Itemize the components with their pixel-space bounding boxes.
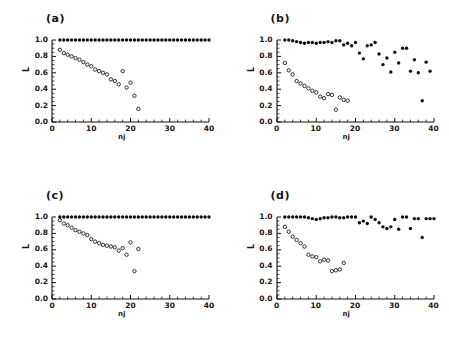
open-circle-marker — [62, 51, 65, 54]
series-open — [58, 218, 140, 272]
filled-circle-marker — [318, 41, 321, 44]
filled-circle-marker — [145, 215, 148, 218]
x-tick-label: 30 — [165, 301, 175, 310]
filled-circle-marker — [306, 41, 309, 44]
x-tick-label: 40 — [428, 301, 438, 310]
filled-circle-marker — [373, 217, 376, 220]
filled-circle-marker — [109, 215, 112, 218]
open-circle-marker — [137, 247, 140, 250]
filled-circle-marker — [361, 57, 364, 60]
filled-circle-marker — [121, 38, 124, 41]
filled-circle-marker — [74, 38, 77, 41]
filled-circle-marker — [125, 215, 128, 218]
filled-circle-marker — [168, 215, 171, 218]
filled-circle-marker — [141, 38, 144, 41]
open-circle-marker — [117, 248, 120, 251]
filled-circle-marker — [369, 43, 372, 46]
filled-circle-marker — [133, 38, 136, 41]
x-tick-label: 20 — [125, 124, 135, 133]
filled-circle-marker — [117, 215, 120, 218]
filled-circle-marker — [113, 38, 116, 41]
filled-circle-marker — [66, 215, 69, 218]
filled-circle-marker — [302, 215, 305, 218]
y-tick-labels: 0.00.20.40.60.81.0 — [247, 217, 273, 299]
open-circle-marker — [310, 89, 313, 92]
filled-circle-marker — [412, 216, 415, 219]
filled-circle-marker — [152, 38, 155, 41]
open-circle-marker — [70, 225, 73, 228]
filled-circle-marker — [62, 215, 65, 218]
filled-circle-marker — [86, 215, 89, 218]
filled-circle-marker — [164, 215, 167, 218]
filled-circle-marker — [330, 41, 333, 44]
filled-circle-marker — [62, 38, 65, 41]
filled-circle-marker — [408, 226, 411, 229]
chart-panel-d: (d)Lnj0.00.20.40.60.81.0010203040 — [225, 177, 449, 353]
filled-circle-marker — [291, 39, 294, 42]
filled-circle-marker — [188, 215, 191, 218]
open-circle-marker — [291, 234, 294, 237]
filled-circle-marker — [160, 215, 163, 218]
filled-circle-marker — [90, 215, 93, 218]
filled-circle-marker — [322, 216, 325, 219]
filled-circle-marker — [404, 215, 407, 218]
filled-circle-marker — [302, 42, 305, 45]
filled-circle-marker — [322, 41, 325, 44]
filled-circle-marker — [294, 40, 297, 43]
open-circle-marker — [322, 257, 325, 260]
filled-circle-marker — [353, 41, 356, 44]
filled-circle-marker — [176, 215, 179, 218]
filled-circle-marker — [78, 215, 81, 218]
figure-panel-grid: (a)Lnj0.00.20.40.60.81.0010203040(b)Lnj0… — [0, 0, 449, 353]
series-filled — [58, 38, 211, 41]
filled-circle-marker — [196, 215, 199, 218]
filled-circle-marker — [326, 40, 329, 43]
open-circle-marker — [121, 69, 124, 72]
filled-circle-marker — [342, 216, 345, 219]
open-circle-marker — [66, 223, 69, 226]
filled-circle-marker — [74, 215, 77, 218]
plot-area — [52, 217, 209, 299]
y-tick-label: 0.8 — [35, 228, 48, 237]
series-filled — [283, 215, 436, 239]
open-circle-marker — [105, 244, 108, 247]
filled-circle-marker — [93, 38, 96, 41]
filled-circle-marker — [361, 219, 364, 222]
filled-circle-marker — [420, 235, 423, 238]
open-circle-marker — [133, 269, 136, 272]
x-tick-label: 0 — [49, 124, 54, 133]
filled-circle-marker — [82, 38, 85, 41]
open-circle-marker — [345, 99, 348, 102]
y-tick-label: 0.8 — [259, 228, 272, 237]
open-circle-marker — [298, 82, 301, 85]
series-open — [58, 48, 140, 110]
filled-circle-marker — [318, 216, 321, 219]
open-circle-marker — [58, 48, 61, 51]
filled-circle-marker — [176, 38, 179, 41]
filled-circle-marker — [334, 39, 337, 42]
filled-circle-marker — [125, 38, 128, 41]
filled-circle-marker — [369, 215, 372, 218]
filled-circle-marker — [385, 226, 388, 229]
filled-circle-marker — [129, 38, 132, 41]
filled-circle-marker — [314, 42, 317, 45]
filled-circle-marker — [109, 38, 112, 41]
open-circle-marker — [90, 65, 93, 68]
filled-circle-marker — [148, 38, 151, 41]
filled-circle-marker — [156, 215, 159, 218]
y-tick-label: 0.4 — [259, 84, 272, 93]
filled-circle-marker — [196, 38, 199, 41]
open-circle-marker — [287, 69, 290, 72]
filled-circle-marker — [90, 38, 93, 41]
filled-circle-marker — [133, 215, 136, 218]
panel-label-a: (a) — [46, 12, 65, 25]
open-circle-marker — [306, 87, 309, 90]
open-circle-marker — [318, 259, 321, 262]
filled-circle-marker — [377, 52, 380, 55]
filled-circle-marker — [207, 215, 210, 218]
filled-circle-marker — [385, 56, 388, 59]
open-circle-marker — [93, 239, 96, 242]
open-circle-marker — [78, 58, 81, 61]
x-tick-label: 40 — [204, 301, 214, 310]
open-circle-marker — [294, 238, 297, 241]
